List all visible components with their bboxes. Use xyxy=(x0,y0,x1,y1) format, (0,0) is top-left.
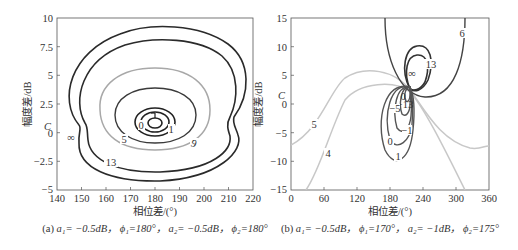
figure: 10 7.5 5 2.5 0 −2.5 −5 C 140 150 160 170… xyxy=(0,0,518,250)
contour-label: 5 xyxy=(121,134,126,145)
y-tick: 5 xyxy=(48,70,53,81)
y-tick: 10 xyxy=(277,42,288,53)
x-tick: 60 xyxy=(319,193,330,204)
x-axis-label: 相位差/(°) xyxy=(368,205,413,218)
x-tick: 120 xyxy=(349,193,365,204)
x-tick: 220 xyxy=(245,193,261,204)
x-tick: 360 xyxy=(481,193,497,204)
y-tick: −2.5 xyxy=(34,156,53,167)
y-tick: 5 xyxy=(282,70,287,81)
contour-inf xyxy=(69,27,246,181)
x-tick: 150 xyxy=(74,193,90,204)
x-tick: 0 xyxy=(288,193,293,204)
contour-13 xyxy=(80,40,236,172)
x-tick: 200 xyxy=(196,193,212,204)
x-tick: 160 xyxy=(98,193,114,204)
x-tick: 190 xyxy=(172,193,188,204)
y-axis-label: 幅度差/dB xyxy=(21,81,33,126)
y-tick: −5 xyxy=(276,128,287,139)
contour-label: 13 xyxy=(106,157,117,168)
plot-frame-a xyxy=(57,18,253,190)
y-tick: 10 xyxy=(43,13,54,24)
y-axis-label: 幅度差/dB xyxy=(252,81,264,126)
contour-label: ∞ xyxy=(67,132,75,143)
contour-label: 0 xyxy=(387,136,392,147)
contour-m1 xyxy=(148,118,162,128)
y-tick: −10 xyxy=(271,156,287,167)
y-tick: 15 xyxy=(277,13,288,24)
contour-label: 0 xyxy=(138,120,143,131)
x-tick: 210 xyxy=(221,193,237,204)
contour-label: 5 xyxy=(311,119,316,130)
contour-label: 4 xyxy=(325,148,331,159)
x-tick: 140 xyxy=(49,193,65,204)
y-tick: −15 xyxy=(271,184,287,195)
y-tick: 7.5 xyxy=(40,42,53,53)
x-tick: 170 xyxy=(123,193,139,204)
panel-a: 10 7.5 5 2.5 0 −2.5 −5 C 140 150 160 170… xyxy=(21,13,268,235)
caption-a: (a) a₁= −0.5dB， ϕ₁=180°， a₂= −0.5dB， ϕ₂=… xyxy=(42,223,268,235)
contour-label: 1 xyxy=(168,124,173,135)
contour-label: 6 xyxy=(459,28,464,39)
c-marker: C xyxy=(44,121,52,132)
caption-b: (b) a₁= −0.5dB， ϕ₁=170°， a₂= −1dB， ϕ₂=17… xyxy=(281,223,500,235)
x-axis-label: 相位差/(°) xyxy=(133,205,178,218)
x-tick: 180 xyxy=(147,193,163,204)
y-tick: 2.5 xyxy=(40,99,53,110)
contour-label: ∞ xyxy=(408,68,416,79)
c-marker: C xyxy=(278,90,286,101)
panel-b: 15 10 5 0 −5 −10 −15 C 0 60 120 180 240 … xyxy=(252,13,500,235)
x-tick: 300 xyxy=(448,193,464,204)
x-tick: 240 xyxy=(415,193,431,204)
contour-label: −1 xyxy=(401,125,412,136)
contour-label: 13 xyxy=(426,59,437,70)
contour-label: −5 xyxy=(389,103,400,114)
contour-label: 1 xyxy=(395,151,400,162)
x-tick: 180 xyxy=(382,193,398,204)
